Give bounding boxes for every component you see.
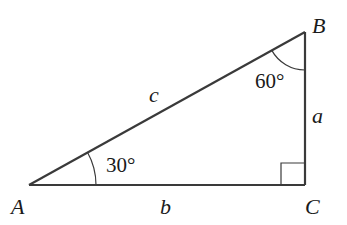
side-label-b: b — [160, 194, 171, 219]
side-label-a: a — [312, 103, 323, 128]
triangle-diagram: A B C a b c 30° 60° — [0, 0, 347, 225]
vertex-label-c: C — [305, 194, 320, 219]
angle-arc-a — [88, 153, 96, 186]
vertex-label-a: A — [9, 194, 25, 219]
side-c-line — [29, 32, 305, 185]
angle-label-b: 60° — [255, 69, 284, 93]
angle-label-a: 30° — [106, 153, 135, 177]
right-angle-marker — [281, 163, 305, 185]
side-label-c: c — [149, 82, 159, 107]
vertex-label-b: B — [312, 13, 325, 38]
angle-arc-b — [272, 50, 305, 70]
